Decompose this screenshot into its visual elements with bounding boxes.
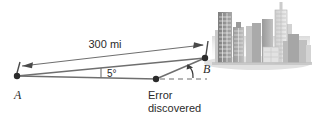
- error-label-line-2: discovered: [148, 102, 201, 114]
- building-right-4: [306, 45, 311, 63]
- error-label-line-1: Error: [148, 89, 173, 101]
- city-skyline: [204, 2, 312, 70]
- dimension-arrowhead-right: [193, 42, 204, 48]
- skyline-ground-shadow: [212, 62, 312, 65]
- building-right-3: [283, 41, 288, 63]
- segment-error-to-b: [156, 58, 205, 79]
- angle-label: 5°: [107, 68, 117, 79]
- dimension-arrowhead-left: [22, 62, 33, 68]
- diagram-canvas: 300 mi 5° A B Error discovered: [0, 0, 312, 119]
- vertex-dot-error: [153, 76, 159, 82]
- dimension-tick-a: [17, 62, 20, 73]
- dimension-tick-b: [206, 41, 208, 55]
- distance-label: 300 mi: [88, 38, 121, 50]
- building-right-2: [299, 40, 307, 63]
- point-a-label: A: [13, 88, 22, 102]
- segment-a-to-error: [17, 76, 157, 79]
- point-b-label: B: [203, 62, 211, 76]
- building-right-1: [288, 34, 299, 63]
- building-mid-stepped-cap: [236, 22, 241, 28]
- building-tower-dark: [218, 12, 232, 63]
- navigation-error-diagram: 300 mi 5° A B Error discovered: [0, 0, 312, 119]
- building-slab-grey: [252, 23, 261, 63]
- building-spire: [280, 2, 283, 11]
- vertex-dot-b: [202, 55, 208, 61]
- building-back-2: [246, 26, 253, 63]
- vertex-dot-a: [14, 73, 20, 79]
